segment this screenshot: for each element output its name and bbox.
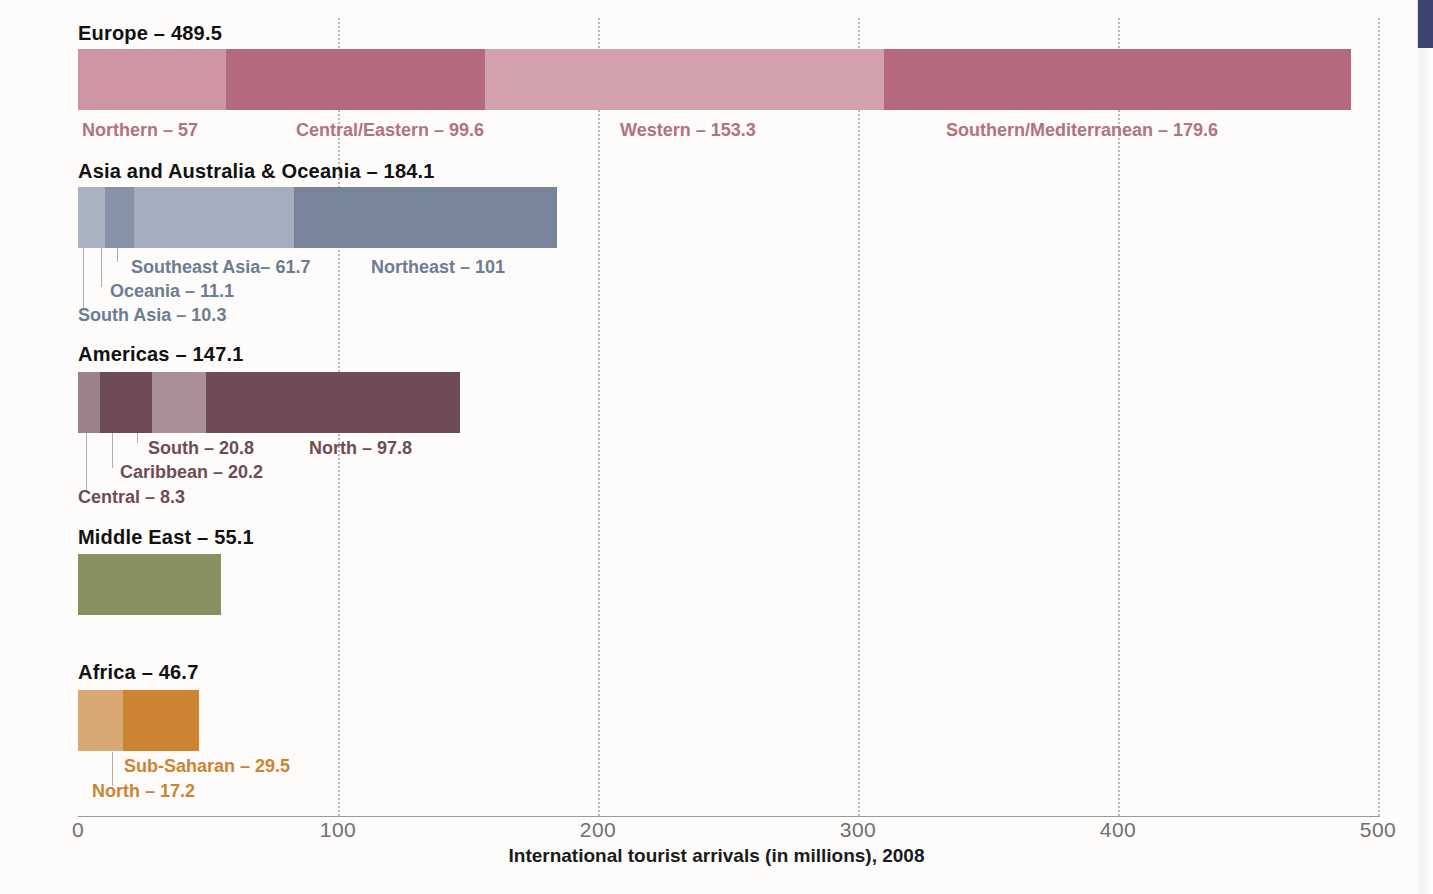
segment-label: Central/Eastern – 99.6 bbox=[296, 120, 484, 141]
segment-label: Northeast – 101 bbox=[371, 257, 505, 278]
bar-segment[interactable] bbox=[134, 187, 294, 248]
bar-segment[interactable] bbox=[78, 554, 221, 615]
region-title-africa: Africa – 46.7 bbox=[78, 661, 198, 684]
bar-segment[interactable] bbox=[100, 372, 153, 433]
gridline bbox=[858, 18, 860, 816]
bar-segment[interactable] bbox=[294, 187, 557, 248]
bar-segment[interactable] bbox=[206, 372, 460, 433]
gridline bbox=[598, 18, 600, 816]
segment-label: Sub-Saharan – 29.5 bbox=[124, 756, 290, 777]
leader-line bbox=[112, 433, 113, 468]
gridline bbox=[1378, 18, 1380, 816]
segment-label: Oceania – 11.1 bbox=[110, 281, 234, 302]
stacked-bar[interactable] bbox=[78, 690, 199, 751]
bar-segment[interactable] bbox=[485, 49, 884, 110]
segment-label: North – 97.8 bbox=[309, 438, 412, 459]
stacked-bar[interactable] bbox=[78, 49, 1351, 110]
scan-edge-artifact bbox=[1417, 0, 1433, 48]
region-title-middle-east: Middle East – 55.1 bbox=[78, 526, 254, 549]
leader-line bbox=[117, 248, 118, 262]
segment-label: Northern – 57 bbox=[82, 120, 198, 141]
segment-label: Western – 153.3 bbox=[620, 120, 756, 141]
segment-label: Southeast Asia– 61.7 bbox=[131, 257, 310, 278]
stacked-bar[interactable] bbox=[78, 372, 460, 433]
leader-line bbox=[137, 433, 138, 443]
chart-page: 0100200300400500Europe – 489.5Northern –… bbox=[0, 0, 1433, 894]
segment-label: South Asia – 10.3 bbox=[78, 305, 226, 326]
x-axis-tick-label: 400 bbox=[1100, 818, 1137, 842]
bar-segment[interactable] bbox=[152, 372, 206, 433]
bar-segment[interactable] bbox=[78, 49, 226, 110]
scan-page-edge bbox=[1414, 48, 1433, 894]
x-axis-line bbox=[78, 816, 1380, 817]
segment-label: Southern/Mediterranean – 179.6 bbox=[946, 120, 1218, 141]
x-axis-tick-label: 300 bbox=[840, 818, 877, 842]
leader-line bbox=[101, 248, 102, 287]
region-title-americas: Americas – 147.1 bbox=[78, 343, 244, 366]
x-axis-tick-label: 100 bbox=[320, 818, 357, 842]
segment-label: South – 20.8 bbox=[148, 438, 254, 459]
bar-segment[interactable] bbox=[105, 187, 134, 248]
bar-segment[interactable] bbox=[78, 690, 123, 751]
segment-label: Caribbean – 20.2 bbox=[120, 462, 263, 483]
x-axis-tick-label: 0 bbox=[72, 818, 84, 842]
leader-line bbox=[86, 433, 87, 492]
bar-segment[interactable] bbox=[78, 372, 100, 433]
x-axis-tick-label: 200 bbox=[580, 818, 617, 842]
bar-segment[interactable] bbox=[123, 690, 200, 751]
chart-plot-area: 0100200300400500Europe – 489.5Northern –… bbox=[0, 0, 1433, 894]
segment-label: Central – 8.3 bbox=[78, 487, 185, 508]
segment-label: North – 17.2 bbox=[92, 781, 195, 802]
bar-segment[interactable] bbox=[884, 49, 1351, 110]
region-title-europe: Europe – 489.5 bbox=[78, 22, 222, 45]
bar-segment[interactable] bbox=[78, 187, 105, 248]
stacked-bar[interactable] bbox=[78, 554, 221, 615]
x-axis-tick-label: 500 bbox=[1360, 818, 1397, 842]
axis-title: International tourist arrivals (in milli… bbox=[0, 845, 1433, 867]
region-title-asia-and-australia-oceania: Asia and Australia & Oceania – 184.1 bbox=[78, 160, 435, 183]
leader-line bbox=[83, 248, 84, 311]
bar-segment[interactable] bbox=[226, 49, 485, 110]
stacked-bar[interactable] bbox=[78, 187, 557, 248]
